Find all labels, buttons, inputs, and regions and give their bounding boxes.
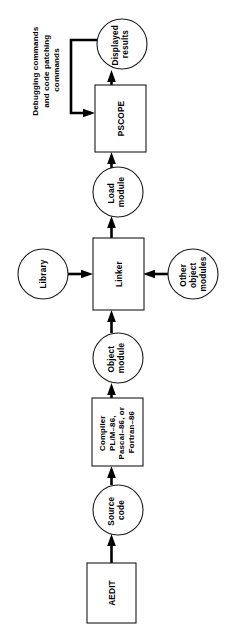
node-source-code[interactable]: Source code [93,485,143,535]
connector-other-object-modules-to-linker [143,270,168,279]
node-library[interactable]: Library [18,249,68,299]
node-pscope[interactable]: PSCOPE [95,85,146,152]
flowchart-diagram: Displayed results PSCOPE Load module Lin… [0,0,228,630]
connector-library-to-linker [68,270,93,279]
node-load-module-label: Load module [106,177,126,208]
connector-feedback-loop [71,40,98,117]
connector-source-code-to-compiler [107,466,116,485]
node-object-module-label: Object module [106,343,126,374]
node-pscope-label: PSCOPE [116,100,126,136]
node-displayed-results[interactable]: Displayed results [97,19,147,69]
node-other-object-modules-label: Other object modules [178,256,208,291]
node-library-label: Library [38,259,48,288]
node-object-module[interactable]: Object module [93,333,143,383]
connector-compiler-to-object-module [107,383,116,398]
node-compiler[interactable]: Compiler PL/M–86, Pascal–86, or Fortran–… [92,398,143,466]
connector-object-module-to-linker [107,310,116,333]
feedback-annotation-label: Debugging commands and code patching com… [31,24,61,115]
node-load-module[interactable]: Load module [93,167,143,217]
connector-linker-to-load-module [107,216,116,238]
node-aedit[interactable]: AEDIT [87,563,136,623]
connector-load-module-to-pscope [107,152,116,168]
diagram-canvas: Displayed results PSCOPE Load module Lin… [0,0,228,630]
node-linker[interactable]: Linker [93,238,144,310]
node-aedit-label: AEDIT [107,580,117,606]
connector-pscope-to-displayed-results [107,70,116,85]
node-linker-label: Linker [114,260,124,286]
connector-aedit-to-source-code [107,534,116,563]
node-other-object-modules[interactable]: Other object modules [168,249,218,299]
